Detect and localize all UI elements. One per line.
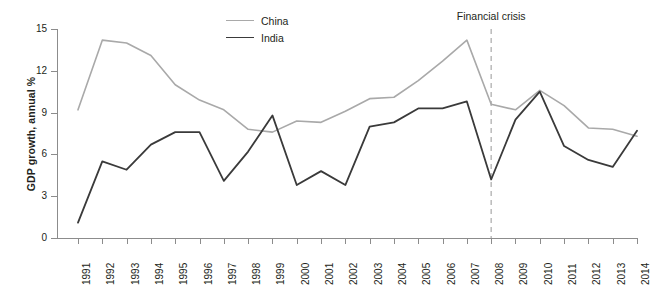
gdp-growth-line-chart: GDP growth, annual % 03691215 1991199219… [0, 0, 660, 291]
legend-item-india: India [226, 29, 288, 46]
legend-label-india: India [261, 32, 284, 44]
plot-area [0, 0, 660, 291]
financial-crisis-annotation: Financial crisis [457, 10, 526, 22]
legend-item-china: China [226, 12, 288, 29]
legend-swatch-india [226, 37, 254, 38]
legend: China India [226, 12, 288, 46]
legend-swatch-china [226, 20, 254, 21]
series-line-india [78, 92, 637, 223]
legend-label-china: China [261, 15, 288, 27]
